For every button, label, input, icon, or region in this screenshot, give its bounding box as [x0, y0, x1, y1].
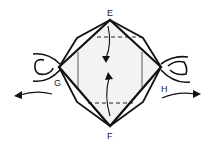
arrow-pull-left [20, 92, 52, 95]
arrowhead-left-icon [14, 91, 22, 99]
label-h: H [161, 84, 168, 94]
arrowhead-right-icon [193, 90, 201, 98]
right-loop-lower [161, 70, 190, 82]
left-loop-outer [33, 54, 60, 64]
label-g: G [54, 78, 61, 88]
right-loop-inner [168, 62, 187, 75]
left-loop-inner [35, 60, 53, 75]
label-f: F [107, 131, 113, 141]
label-e: E [107, 8, 113, 18]
origami-diagram: E F G H [0, 0, 214, 147]
